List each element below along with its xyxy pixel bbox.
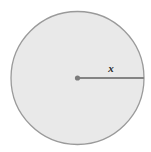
figure-canvas [0,0,151,152]
radius-label: x [104,62,118,75]
center-dot [75,75,80,80]
circle-radius-figure: x [0,0,151,152]
